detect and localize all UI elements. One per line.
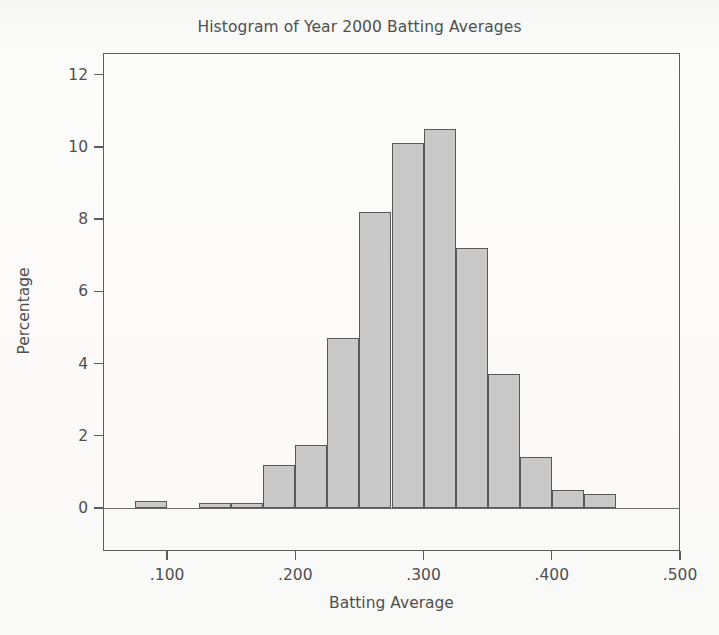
zero-baseline: [103, 508, 680, 509]
histogram-bar: [392, 143, 424, 508]
x-axis-tick: [551, 551, 552, 560]
y-axis-tick-label: 8: [22, 210, 88, 228]
histogram-bar: [424, 129, 456, 508]
y-axis-tick-label: 12: [22, 66, 88, 84]
x-axis-tick: [423, 551, 424, 560]
histogram-bar: [263, 465, 295, 508]
x-axis-tick-label: .400: [512, 566, 592, 584]
histogram-bar: [456, 248, 488, 508]
x-axis-tick: [295, 551, 296, 560]
y-axis-tick-label: 0: [22, 499, 88, 517]
histogram-bar: [488, 374, 520, 508]
histogram-bar: [295, 445, 327, 508]
x-axis-tick: [166, 551, 167, 560]
x-axis-tick-label: .200: [255, 566, 335, 584]
plot-area: [103, 53, 680, 551]
y-axis-tick: [94, 363, 103, 364]
y-axis-tick: [94, 291, 103, 292]
y-axis-tick: [94, 146, 103, 147]
x-axis-tick-label: .100: [127, 566, 207, 584]
y-axis-tick: [94, 74, 103, 75]
histogram-bar: [520, 457, 552, 508]
y-axis-tick-label: 2: [22, 427, 88, 445]
histogram-bar: [327, 338, 359, 508]
x-axis-tick-label: .300: [384, 566, 464, 584]
chart-title: Histogram of Year 2000 Batting Averages: [0, 18, 719, 36]
y-axis-tick-label: 10: [22, 138, 88, 156]
histogram-bar: [359, 212, 391, 508]
y-axis-tick: [94, 218, 103, 219]
x-axis-tick-label: .500: [640, 566, 719, 584]
x-axis-tick: [679, 551, 680, 560]
histogram-bar: [584, 494, 616, 508]
y-axis-label: Percentage: [15, 241, 33, 381]
histogram-bar: [552, 490, 584, 508]
histogram-bar: [135, 501, 167, 508]
histogram-figure: Histogram of Year 2000 Batting Averages …: [0, 0, 719, 635]
x-axis-label: Batting Average: [103, 594, 680, 612]
y-axis-tick: [94, 435, 103, 436]
y-axis-tick: [94, 507, 103, 508]
